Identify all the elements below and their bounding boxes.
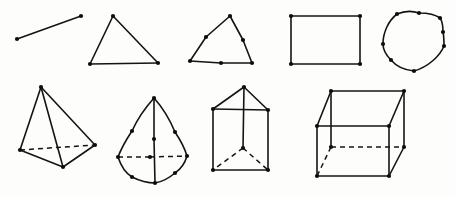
vertex-node-right-lower — [442, 44, 446, 48]
vertex-base-bottom-left — [130, 175, 134, 179]
vertex-end-b — [79, 14, 83, 18]
vertex-rim-left — [116, 155, 120, 159]
vertex-front-top-right — [387, 124, 391, 128]
shape-figures-canvas — [0, 0, 456, 197]
figure-sheet — [0, 0, 456, 197]
vertex-node-left — [381, 42, 385, 46]
vertex-mid-right-edge — [173, 130, 177, 134]
vertex-top-left — [211, 107, 215, 111]
edge-top-left-to-top-right — [213, 109, 268, 110]
vertex-rim-right — [185, 154, 189, 158]
vertex-node-bottom — [412, 69, 416, 73]
vertex-back-top-right — [402, 89, 406, 93]
vertex-bottom-right — [250, 61, 254, 65]
vertex-center-hidden — [241, 146, 245, 150]
vertex-front-top-left — [315, 124, 319, 128]
vertex-bottom-right — [266, 168, 270, 172]
vertex-back-left — [18, 148, 22, 152]
vertex-mid-left-edge — [130, 129, 134, 133]
vertex-back-bottom-right — [402, 145, 406, 149]
vertex-node-top-left — [395, 12, 399, 16]
vertex-bottom-right — [156, 61, 160, 65]
vertex-back-top-left — [329, 89, 333, 93]
vertex-top-right — [358, 14, 362, 18]
vertex-end-a — [15, 37, 19, 41]
vertex-apex — [228, 14, 232, 18]
vertex-front-bottom — [61, 165, 65, 169]
vertex-base-bottom — [153, 181, 157, 185]
vertex-node-top-right — [438, 16, 442, 20]
vertex-back-bottom-left — [329, 145, 333, 149]
vertex-rim-center — [148, 155, 152, 159]
vertex-base-bottom-right — [173, 171, 177, 175]
edge-apex-to-center-hidden — [243, 87, 244, 148]
vertex-bottom-left — [188, 59, 192, 63]
vertex-node-top-mid — [417, 11, 421, 15]
vertex-node-right-upper — [441, 30, 445, 34]
vertex-back-right — [93, 143, 97, 147]
vertex-apex — [242, 85, 246, 89]
vertex-axis-mid — [152, 137, 156, 141]
vertex-bottom-left — [88, 62, 92, 66]
vertex-apex — [152, 96, 156, 100]
vertex-bottom-left — [289, 62, 293, 66]
vertex-top-left — [289, 14, 293, 18]
vertex-mid-right-edge — [241, 38, 245, 42]
vertex-apex — [111, 14, 115, 18]
vertex-mid-bottom-edge — [219, 61, 223, 65]
vertex-apex — [39, 85, 43, 89]
vertex-front-bottom-right — [387, 174, 391, 178]
edge-bottom-left-to-bottom-right — [90, 63, 158, 64]
edge-axis-mid-to-base-bottom — [154, 139, 155, 183]
vertex-bottom-left — [211, 168, 215, 172]
vertex-front-bottom-left — [315, 174, 319, 178]
vertex-top-right — [266, 108, 270, 112]
vertex-bottom-right — [358, 62, 362, 66]
vertex-mid-left-edge — [204, 35, 208, 39]
vertex-node-bottom-left — [389, 58, 393, 62]
